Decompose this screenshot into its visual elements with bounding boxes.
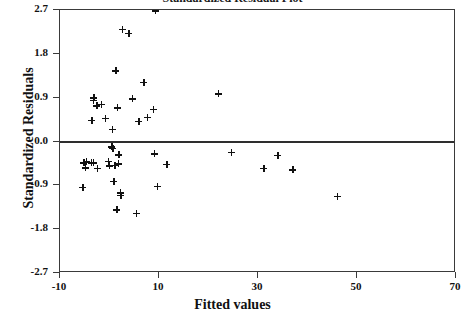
data-point [144,114,151,121]
data-point [129,95,136,102]
data-point [83,158,90,165]
x-tick [455,272,456,278]
y-tick-label: -2.7 [31,266,48,277]
data-point [140,79,147,86]
y-tick-label: -1.8 [31,222,48,233]
x-axis-label: Fitted values [0,297,465,313]
data-point [114,104,121,111]
data-point [117,189,124,196]
data-point [117,192,124,199]
data-point [90,94,97,101]
data-point [80,159,87,166]
data-point [98,101,105,108]
y-tick-label: 2.7 [34,3,48,14]
data-point [79,184,86,191]
x-tick [59,272,60,278]
data-point [93,102,100,109]
data-point [109,126,116,133]
data-point [260,165,267,172]
data-point [228,149,235,156]
x-tick-label: 10 [153,280,164,292]
data-point [112,67,119,74]
data-point [150,106,157,113]
data-point [151,150,158,157]
data-point [111,162,118,169]
y-tick-label: -0.9 [31,178,48,189]
data-point [133,210,140,217]
data-point [88,159,95,166]
data-point [135,118,142,125]
data-point [125,30,132,37]
chart-title: Standardized Residual Plot [0,0,465,3]
data-point [109,145,116,152]
y-tick-label: 0.0 [34,135,48,146]
data-point [90,159,97,166]
x-tick [356,272,357,278]
data-point [115,160,122,167]
data-point [115,151,122,158]
data-point [289,166,296,173]
data-point [105,158,112,165]
x-tick [257,272,258,278]
chart-figure: Standardized Residual Plot Standardized … [0,0,465,318]
x-tick-label: 30 [252,280,263,292]
data-point [94,165,101,172]
data-point [113,206,120,213]
data-point [334,193,341,200]
zero-reference-line [60,141,454,143]
data-point [88,117,95,124]
data-point [82,164,89,171]
data-point [108,143,115,150]
data-point [90,97,97,104]
x-tick-label: -10 [52,280,67,292]
data-point [274,152,281,159]
data-point [102,115,109,122]
x-tick [158,272,159,278]
data-point [110,178,117,185]
x-tick-label: 50 [351,280,362,292]
y-tick-label: 0.9 [34,91,48,102]
data-point [163,161,170,168]
y-tick-label: 1.8 [34,47,48,58]
data-point [215,90,222,97]
plot-frame [59,9,455,272]
plot-area [60,10,454,271]
x-tick-label: 70 [450,280,461,292]
data-point [106,162,113,169]
data-point [152,10,159,14]
data-point [119,26,126,33]
data-point [154,183,161,190]
